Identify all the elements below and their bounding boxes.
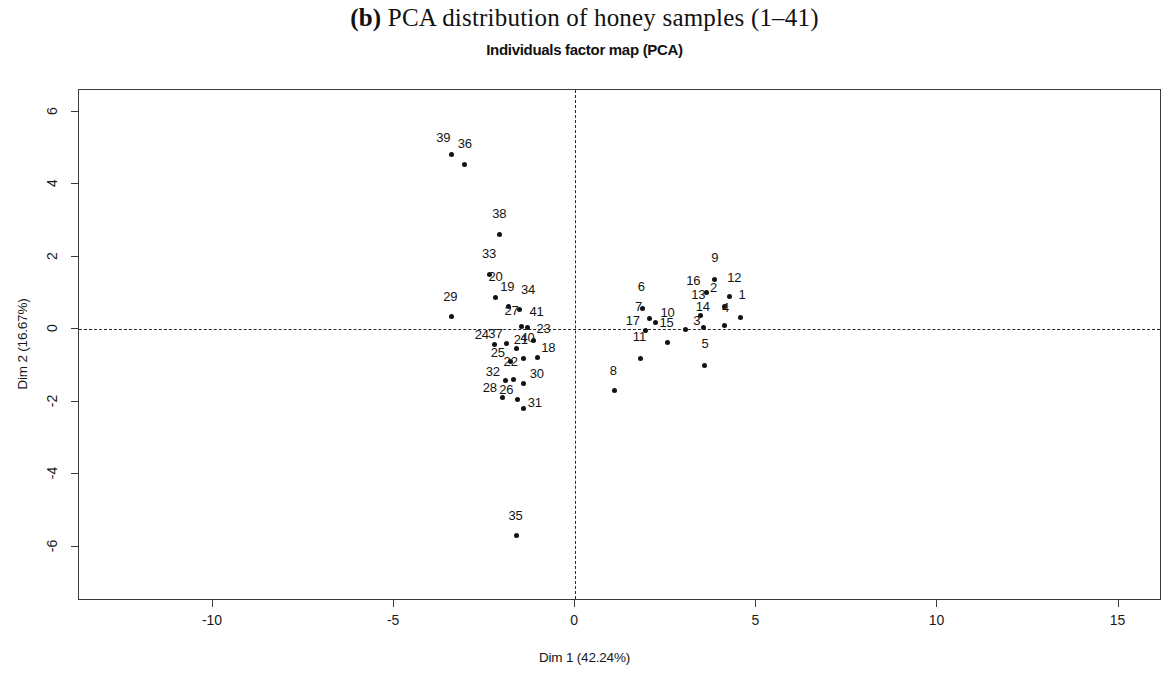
data-point	[653, 320, 658, 325]
data-point	[449, 152, 454, 157]
chart-subtitle: Individuals factor map (PCA)	[0, 41, 1169, 58]
y-axis-tick	[71, 183, 78, 184]
data-point-label: 29	[443, 289, 457, 304]
y-axis-tick	[71, 328, 78, 329]
x-axis-tick-label: -10	[202, 612, 222, 628]
data-point	[702, 363, 707, 368]
data-point-label: 17	[626, 313, 640, 328]
data-point	[500, 395, 505, 400]
y-axis-tick-label: 4	[44, 179, 60, 187]
data-point-label: 14	[696, 299, 710, 314]
data-point	[487, 272, 492, 277]
data-point-label: 39	[436, 130, 450, 145]
data-point	[727, 294, 732, 299]
x-axis-tick-label: 0	[570, 612, 578, 628]
data-point	[493, 295, 498, 300]
data-point-label: 16	[686, 273, 700, 288]
data-point-label: 23	[537, 321, 551, 336]
data-point	[519, 324, 524, 329]
x-axis-title: Dim 1 (42.24%)	[0, 650, 1169, 665]
data-point-label: 33	[482, 246, 496, 261]
data-point	[638, 356, 643, 361]
y-axis-tick	[71, 546, 78, 547]
x-axis-tick-label: 5	[751, 612, 759, 628]
x-axis-tick	[755, 600, 756, 607]
y-axis-tick	[71, 111, 78, 112]
x-axis-tick-label: -5	[387, 612, 399, 628]
data-point-label: 6	[638, 279, 645, 294]
data-point	[514, 346, 519, 351]
data-point	[738, 315, 743, 320]
data-point-label: 41	[529, 304, 543, 319]
data-point	[521, 356, 526, 361]
data-point-label: 18	[541, 340, 555, 355]
x-axis-tick-label: 10	[929, 612, 945, 628]
data-point	[647, 316, 652, 321]
y-axis-tick-label: 2	[44, 252, 60, 260]
page-title: (b) PCA distribution of honey samples (1…	[0, 4, 1169, 32]
figure-panel: (b) PCA distribution of honey samples (1…	[0, 0, 1169, 677]
x-axis-tick	[936, 600, 937, 607]
data-point-label: 25	[491, 345, 505, 360]
data-point-label: 12	[727, 270, 741, 285]
x-axis-tick	[393, 600, 394, 607]
data-point-label: 34	[521, 282, 535, 297]
data-point-label: 2	[710, 280, 717, 295]
scatter-plot-area: 1234567891011121314151617181920212223242…	[78, 89, 1161, 600]
data-point-label: 15	[660, 315, 674, 330]
y-axis-tick-label: -2	[44, 394, 60, 406]
data-point	[665, 340, 670, 345]
y-axis-title: Dim 2 (16.67%)	[15, 299, 30, 390]
data-point-label: 32	[486, 364, 500, 379]
y-axis-tick-label: 6	[44, 107, 60, 115]
data-point	[497, 232, 502, 237]
data-point	[535, 355, 540, 360]
vertical-reference-line	[575, 90, 576, 599]
main-title-text: PCA distribution of honey samples (1–41)	[381, 4, 818, 31]
data-point	[515, 397, 520, 402]
x-axis-tick-label: 15	[1110, 612, 1126, 628]
data-point-label: 5	[701, 336, 708, 351]
data-point	[521, 406, 526, 411]
y-axis-tick	[71, 401, 78, 402]
panel-label: (b)	[350, 4, 381, 31]
data-point	[521, 381, 526, 386]
data-point	[704, 290, 709, 295]
y-axis-tick-label: -4	[44, 467, 60, 479]
data-point	[462, 162, 467, 167]
data-point-label: 38	[492, 206, 506, 221]
x-axis-tick	[212, 600, 213, 607]
data-point-label: 30	[530, 366, 544, 381]
x-axis-tick	[1118, 600, 1119, 607]
data-point-label: 8	[610, 363, 617, 378]
data-point	[643, 328, 648, 333]
data-point	[517, 307, 522, 312]
horizontal-reference-line	[79, 329, 1160, 330]
data-point	[701, 325, 706, 330]
data-point	[514, 533, 519, 538]
data-point	[612, 388, 617, 393]
y-axis-tick-label: -6	[44, 539, 60, 551]
data-point	[504, 341, 509, 346]
data-point	[712, 277, 717, 282]
data-point-label: 9	[711, 250, 718, 265]
data-point-label: 28	[483, 380, 497, 395]
data-point	[525, 325, 530, 330]
data-point-label: 35	[509, 508, 523, 523]
data-point-label: 37	[488, 326, 502, 341]
y-axis-tick	[71, 256, 78, 257]
data-point	[449, 314, 454, 319]
data-point-label: 1	[739, 287, 746, 302]
y-axis-tick	[71, 473, 78, 474]
data-point-label: 40	[521, 330, 535, 345]
data-point-label: 31	[528, 395, 542, 410]
data-point-label: 24	[475, 327, 489, 342]
data-point-label: 4	[722, 300, 729, 315]
x-axis-tick	[574, 600, 575, 607]
y-axis-tick-label: 0	[44, 324, 60, 332]
data-point	[722, 323, 727, 328]
data-point-label: 36	[458, 136, 472, 151]
data-point	[683, 327, 688, 332]
